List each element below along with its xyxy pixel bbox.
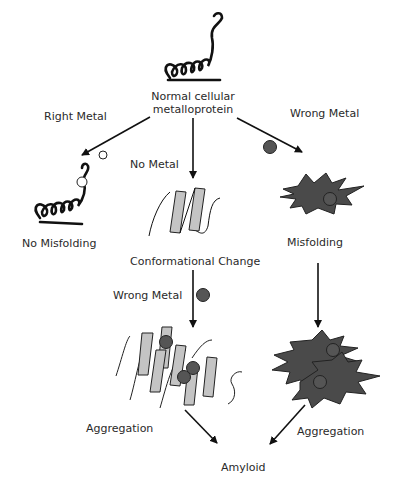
star-aggregate-icon: [272, 330, 380, 408]
misfolded-star-icon: [280, 173, 364, 214]
aggregation-right-label: Aggregation: [297, 425, 364, 438]
right-metal-ion-icon: [99, 151, 107, 159]
beta-sheet-icon: [149, 188, 220, 236]
wrong-metal-label-mid: Wrong Metal: [113, 289, 182, 302]
misfolding-label: Misfolding: [287, 236, 343, 249]
wrong-metal-ion-icon-mid: [197, 289, 210, 302]
normal-metalloprotein-label: Normal cellular metalloprotein: [138, 90, 248, 116]
normal-label-line2: metalloprotein: [138, 103, 248, 116]
right-metal-label: Right Metal: [44, 110, 107, 123]
no-metal-label: No Metal: [130, 158, 179, 171]
coiled-protein-icon: [166, 13, 222, 80]
wrong-metal-label-top: Wrong Metal: [290, 107, 359, 120]
no-misfolding-label: No Misfolding: [22, 237, 96, 250]
beta-sheet-aggregate-icon: [116, 327, 242, 408]
arrow-aggregation-left: [185, 410, 217, 443]
normal-label-line1: Normal cellular: [138, 90, 248, 103]
wrong-metal-ion-icon: [264, 141, 277, 154]
coiled-protein-with-metal-icon: [36, 164, 89, 224]
aggregation-left-label: Aggregation: [86, 422, 153, 435]
amyloid-label: Amyloid: [221, 461, 266, 474]
conformational-change-label: Conformational Change: [130, 255, 260, 268]
